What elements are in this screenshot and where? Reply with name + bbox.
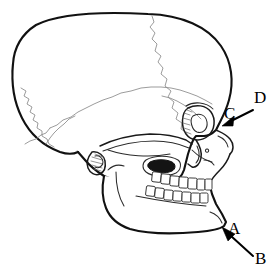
label-d: D [254,89,266,106]
cranium-outline [13,13,232,186]
maxilla-cheek [192,150,212,162]
label-c: C [224,105,235,122]
nasal-bridge-detail [218,136,228,147]
skull-diagram: A B C D [0,0,277,279]
nasal-bone [216,130,233,154]
label-b: B [255,250,266,267]
infraorbital-foramen [205,149,208,152]
label-a: A [228,220,240,237]
